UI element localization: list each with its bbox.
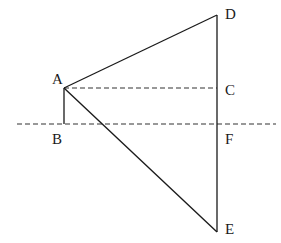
segment-ae <box>64 88 217 232</box>
segment-ad <box>64 15 217 88</box>
geometry-diagram: A B C D E F <box>0 0 281 243</box>
label-d: D <box>225 6 236 22</box>
label-b: B <box>52 131 62 147</box>
label-f: F <box>225 131 233 147</box>
label-a: A <box>52 71 63 87</box>
label-c: C <box>225 82 235 98</box>
label-e: E <box>225 221 234 237</box>
